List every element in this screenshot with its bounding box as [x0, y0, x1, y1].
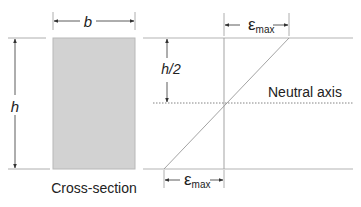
diagram-svg: b h Cross-section Neutral axis h/2 εmax — [0, 0, 361, 207]
top-strain-label: εmax — [248, 15, 275, 35]
width-dimension: b — [53, 12, 135, 30]
strain-distribution-line — [164, 38, 289, 169]
neutral-axis-label: Neutral axis — [268, 84, 342, 100]
width-label: b — [84, 13, 92, 30]
bottom-strain-label: εmax — [184, 170, 211, 190]
strain-diagram: Neutral axis — [143, 38, 353, 169]
bottom-strain-dimension: εmax — [164, 170, 224, 190]
top-strain-dimension: εmax — [224, 13, 289, 36]
half-height-dimension: h/2 — [161, 39, 181, 102]
height-label: h — [11, 98, 19, 115]
cross-section-rect — [53, 38, 135, 169]
cross-section-caption: Cross-section — [51, 180, 137, 196]
height-dimension: h — [8, 38, 50, 169]
half-height-label: h/2 — [161, 61, 181, 77]
beam-strain-diagram: b h Cross-section Neutral axis h/2 εmax — [0, 0, 361, 207]
